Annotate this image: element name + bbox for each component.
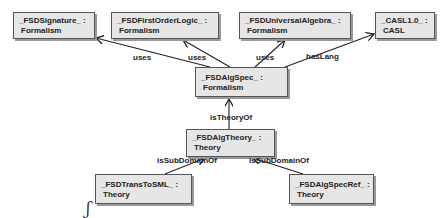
node-name: _FSDTransToSML_ :: [101, 180, 186, 190]
node-type: Formalism: [19, 26, 89, 36]
node-name: _FSDFirstOrderLogic_ :: [117, 16, 213, 26]
edge-label-issubdomainof-right: isSubDomainOf: [249, 156, 309, 165]
edge-label-issubdomainof-left: isSubDomainOf: [157, 156, 217, 165]
node-fsd-signature[interactable]: _FSDSignature_ : Formalism: [13, 12, 95, 39]
node-type: Theory: [192, 143, 269, 153]
edge-label-istheoryof: isTheoryOf: [210, 113, 252, 122]
node-fsd-universal-algebra[interactable]: _FSDUniversalAlgebra_ : Formalism: [239, 12, 351, 39]
node-type: Formalism: [201, 83, 282, 93]
edge-label-uses-1: uses: [133, 53, 151, 62]
edge-label-haslang: hasLang: [306, 52, 339, 61]
node-fsd-alg-spec[interactable]: _FSDAlgSpec_ : Formalism: [195, 67, 288, 97]
node-name: _FSDAlgSpecRef_ :: [295, 180, 368, 190]
stray-mark: ʃ: [86, 199, 90, 218]
node-type: Theory: [295, 190, 368, 200]
edge-label-uses-2: uses: [188, 53, 206, 62]
node-name: _FSDUniversalAlgebra_ :: [245, 16, 345, 26]
node-type: Formalism: [245, 26, 345, 36]
node-fsd-alg-theory[interactable]: _FSDAlgTheory_ : Theory: [186, 129, 275, 157]
node-name: _FSDAlgSpec_ :: [201, 73, 282, 83]
node-fsd-alg-spec-ref[interactable]: _FSDAlgSpecRef_ : Theory: [289, 174, 374, 204]
node-type: Theory: [101, 190, 186, 200]
node-casl[interactable]: _CASL1.0_ : CASL: [375, 12, 435, 39]
node-fsd-trans-to-sml[interactable]: _FSDTransToSML_ : Theory: [95, 174, 192, 204]
node-fsd-first-order-logic[interactable]: _FSDFirstOrderLogic_ : Formalism: [111, 12, 219, 39]
node-name: _CASL1.0_ :: [381, 16, 429, 26]
node-type: CASL: [381, 26, 429, 36]
node-type: Formalism: [117, 26, 213, 36]
edge-label-uses-3: uses: [256, 53, 274, 62]
node-name: _FSDAlgTheory_ :: [192, 133, 269, 143]
node-name: _FSDSignature_ :: [19, 16, 89, 26]
